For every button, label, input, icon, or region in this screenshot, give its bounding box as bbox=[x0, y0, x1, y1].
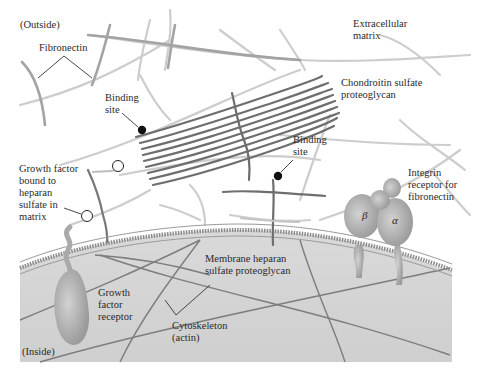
label-binding-site-1: Binding site bbox=[105, 92, 139, 116]
label-growth-factor-receptor: Growth factor receptor bbox=[98, 287, 132, 323]
label-outside: (Outside) bbox=[20, 19, 60, 31]
label-extracellular-matrix: Extracellular matrix bbox=[353, 18, 407, 42]
matrix-strand-branch bbox=[92, 170, 117, 172]
binding-site-dot-2 bbox=[274, 172, 282, 180]
fibronectin-pointer bbox=[38, 56, 92, 78]
growth-factor-receptor bbox=[54, 227, 89, 345]
extracellular-matrix-fibers bbox=[20, 10, 470, 225]
label-membrane-heparan: Membrane heparan sulfate proteoglycan bbox=[205, 253, 290, 277]
label-cytoskeleton: Cytoskeleton (actin) bbox=[172, 320, 227, 344]
label-integrin-receptor: Integrin receptor for fibronectin bbox=[408, 167, 457, 203]
label-inside: (Inside) bbox=[22, 346, 55, 358]
growth-factor-circle-2 bbox=[82, 211, 93, 222]
label-alpha: α bbox=[392, 214, 398, 226]
label-beta: β bbox=[362, 209, 367, 221]
growth-factor-circle-1 bbox=[113, 161, 124, 172]
binding-site-dot-1 bbox=[138, 126, 146, 134]
binding-site-pointer-2 bbox=[281, 160, 293, 172]
matrix-heparan-strand bbox=[88, 170, 107, 245]
label-binding-site-2: Binding site bbox=[293, 134, 327, 158]
label-chondroitin-sulfate-proteoglycan: Chondroitin sulfate proteoglycan bbox=[341, 77, 422, 101]
chondroitin-sulfate-proteoglycan bbox=[136, 76, 339, 185]
label-growth-factor-bound: Growth factor bound to heparan sulfate i… bbox=[19, 163, 78, 223]
label-fibronectin: Fibronectin bbox=[39, 42, 87, 54]
